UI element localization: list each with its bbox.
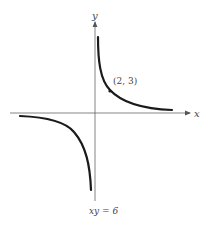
equation-text: xy = 6 — [89, 206, 118, 216]
hyperbola-branch-lower — [20, 116, 91, 190]
equation-label: xy = 6 — [89, 206, 118, 216]
point-marker — [108, 89, 111, 92]
hyperbola-branch-upper — [98, 37, 172, 110]
x-axis-label: x — [194, 108, 200, 119]
point-label: (2, 3) — [113, 76, 137, 86]
y-axis-label: y — [91, 10, 98, 21]
hyperbola-graph: x y (2, 3) xy = 6 — [0, 0, 206, 229]
